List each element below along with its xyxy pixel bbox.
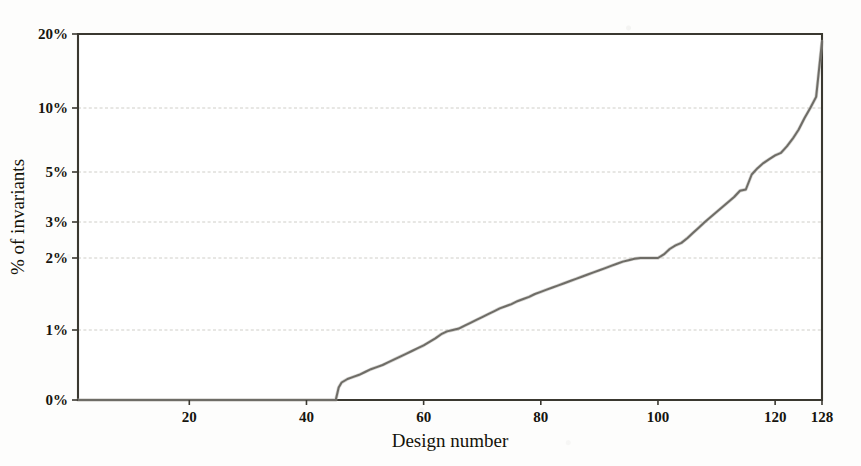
y-tick-label-3: 3% — [46, 214, 69, 230]
x-tick-label-128: 128 — [811, 409, 834, 425]
x-tick-label-40: 40 — [299, 409, 314, 425]
x-axis-title: Design number — [392, 430, 509, 451]
x-axis-ticks: 20406080100120128 — [182, 400, 833, 425]
x-tick-label-60: 60 — [416, 409, 431, 425]
y-tick-label-1: 1% — [46, 322, 69, 338]
y-tick-label-20: 20% — [38, 26, 68, 42]
x-tick-label-100: 100 — [647, 409, 670, 425]
y-tick-label-5: 5% — [46, 164, 69, 180]
x-tick-label-80: 80 — [533, 409, 548, 425]
line-chart: 0%1%2%3%5%10%20% 20406080100120128 Desig… — [0, 0, 861, 466]
y-axis-title: % of invariants — [7, 159, 28, 275]
x-tick-label-120: 120 — [764, 409, 787, 425]
y-tick-label-10: 10% — [38, 100, 68, 116]
y-axis-ticks: 0%1%2%3%5%10%20% — [38, 26, 78, 408]
chart-figure: 0%1%2%3%5%10%20% 20406080100120128 Desig… — [0, 0, 861, 466]
y-tick-label-0: 0% — [46, 392, 69, 408]
x-tick-label-20: 20 — [182, 409, 197, 425]
y-tick-label-2: 2% — [46, 250, 69, 266]
